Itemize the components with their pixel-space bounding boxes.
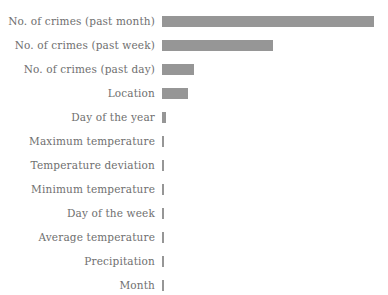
bar-row-label: Month <box>0 279 155 292</box>
bar-track <box>162 40 388 51</box>
bar-row: Month <box>0 273 388 295</box>
bar-row: Maximum temperature <box>0 129 388 153</box>
bar-row-label: Maximum temperature <box>0 135 155 148</box>
bar-row-label: Day of the year <box>0 111 155 124</box>
bar <box>162 40 273 51</box>
bar-row: Average temperature <box>0 225 388 249</box>
bar-track <box>162 112 388 123</box>
bar <box>162 64 194 75</box>
bar-track <box>162 136 388 147</box>
bar <box>162 112 166 123</box>
bar-row-label: No. of crimes (past week) <box>0 39 155 52</box>
bar-track <box>162 280 388 291</box>
bar-track <box>162 208 388 219</box>
bar <box>162 256 164 267</box>
bar-row-label: Temperature deviation <box>0 159 155 172</box>
bar-row-label: Average temperature <box>0 231 155 244</box>
bar-row: Day of the week <box>0 201 388 225</box>
bar-row-label: No. of crimes (past day) <box>0 63 155 76</box>
bar-track <box>162 88 388 99</box>
bar-row: Day of the year <box>0 105 388 129</box>
bar-track <box>162 16 388 27</box>
bar-row: Minimum temperature <box>0 177 388 201</box>
bar-row: No. of crimes (past day) <box>0 57 388 81</box>
bar <box>162 280 164 291</box>
bar-row-label: No. of crimes (past month) <box>0 15 155 28</box>
bar-row: Precipitation <box>0 249 388 273</box>
bar-track <box>162 160 388 171</box>
bar-row-label: Day of the week <box>0 207 155 220</box>
bar-row-label: Location <box>0 87 155 100</box>
bar-track <box>162 64 388 75</box>
bar-row: No. of crimes (past month) <box>0 9 388 33</box>
bar <box>162 184 164 195</box>
bar-row-label: Precipitation <box>0 255 155 268</box>
bar-row: No. of crimes (past week) <box>0 33 388 57</box>
bar <box>162 232 164 243</box>
bar-row-label: Minimum temperature <box>0 183 155 196</box>
bar-track <box>162 256 388 267</box>
bar-track <box>162 184 388 195</box>
bar-row: Temperature deviation <box>0 153 388 177</box>
bar <box>162 16 374 27</box>
bar <box>162 208 164 219</box>
bar-track <box>162 232 388 243</box>
bar <box>162 160 164 171</box>
bar <box>162 136 164 147</box>
bar <box>162 88 188 99</box>
bar-row: Location <box>0 81 388 105</box>
